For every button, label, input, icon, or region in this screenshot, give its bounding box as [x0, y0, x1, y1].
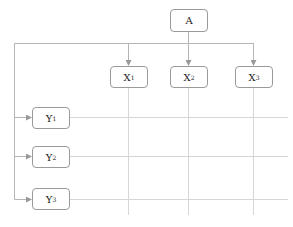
node-x3: X3 — [235, 66, 273, 88]
node-x3-sub: 3 — [256, 74, 260, 81]
node-y2-label: Y — [46, 152, 53, 163]
node-a-label: A — [185, 15, 192, 26]
node-y1-label: Y — [46, 113, 53, 124]
node-y2: Y2 — [32, 146, 70, 168]
node-x2-sub: 2 — [191, 74, 195, 81]
node-x1-sub: 1 — [131, 74, 135, 81]
node-x3-label: X — [249, 72, 256, 83]
node-y1-sub: 1 — [52, 115, 56, 122]
node-y1: Y1 — [32, 107, 70, 129]
node-x2: X2 — [170, 66, 208, 88]
node-x2-label: X — [184, 72, 191, 83]
node-a: A — [170, 9, 208, 32]
node-y3-label: Y — [46, 194, 53, 205]
diagram-canvas: A X1 X2 X3 Y1 Y2 Y3 — [0, 0, 293, 227]
node-y2-sub: 2 — [52, 154, 56, 161]
node-x1-label: X — [124, 72, 131, 83]
node-y3-sub: 3 — [52, 196, 56, 203]
node-y3: Y3 — [32, 188, 70, 210]
node-x1: X1 — [110, 66, 148, 88]
